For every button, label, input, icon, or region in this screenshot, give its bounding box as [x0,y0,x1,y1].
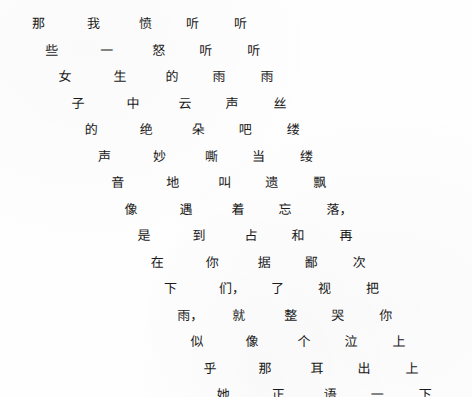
poem-glyph: 上 [392,336,405,349]
poem-glyph: 听 [234,18,247,31]
poem-glyph: 些 [45,45,58,58]
poem-glyph: 吧 [239,124,252,137]
poem-glyph: 雨 [260,71,273,84]
poem-glyph: 怒 [152,45,165,58]
poem-glyph: 出 [358,363,371,376]
poem-glyph: 在 [151,257,164,270]
poem-glyph: 视 [318,283,331,296]
poem-glyph: 耳 [311,363,324,376]
poem-glyph: 落， [326,204,352,217]
poem-glyph: 是 [138,230,151,243]
poem-glyph: 妙 [153,151,166,164]
poem-glyph: 那 [259,363,272,376]
poem-glyph: 朵 [192,124,205,137]
poem-glyph: 雨 [212,71,225,84]
poem-glyph: 绝 [140,124,153,137]
poem-text-layer: 那些女子的声音像是在下雨，似乎她们在记忆里也已经死去我一生中绝妙地遇到你们，就像… [0,0,472,397]
poem-glyph: 个 [297,336,310,349]
poem-glyph: 和 [292,230,305,243]
poem-glyph: 到 [193,230,206,243]
poem-glyph: 地 [166,177,179,190]
poem-glyph: 雨， [177,310,203,323]
poem-glyph: 听 [199,45,212,58]
poem-glyph: 忘 [278,204,291,217]
poem-glyph: 缕 [300,151,313,164]
poem-glyph: 一 [371,389,384,397]
poem-glyph: 的 [85,124,98,137]
poem-glyph: 像 [124,204,137,217]
poem-glyph: 整 [284,310,297,323]
poem-glyph: 上 [406,363,419,376]
poem-glyph: 的 [165,71,178,84]
poem-glyph: 语 [324,389,337,397]
poem-glyph: 缕 [287,124,300,137]
poem-glyph: 中 [127,98,140,111]
poem-glyph: 们， [219,283,245,296]
poem-glyph: 我 [87,18,100,31]
poem-glyph: 次 [353,257,366,270]
poem-glyph: 云 [179,98,192,111]
poem-glyph: 女 [58,71,71,84]
poem-glyph: 泣 [344,336,357,349]
poem-glyph: 就 [232,310,245,323]
poem-glyph: 下 [164,283,177,296]
poem-glyph: 飘 [313,177,326,190]
poem-page: 那些女子的声音像是在下雨，似乎她们在记忆里也已经死去我一生中绝妙地遇到你们，就像… [0,0,472,397]
poem-glyph: 像 [245,336,258,349]
poem-glyph: 音 [111,177,124,190]
poem-glyph: 乎 [204,363,217,376]
poem-glyph: 再 [340,230,353,243]
poem-glyph: 哭 [331,310,344,323]
poem-glyph: 叫 [218,177,231,190]
poem-glyph: 似 [190,336,203,349]
poem-glyph: 你 [206,257,219,270]
poem-glyph: 声 [98,151,111,164]
poem-glyph: 她 [217,389,230,397]
poem-glyph: 把 [366,283,379,296]
poem-glyph: 生 [113,71,126,84]
poem-glyph: 当 [252,151,265,164]
poem-glyph: 遗 [265,177,278,190]
poem-glyph: 正 [272,389,285,397]
poem-glyph: 下 [419,389,432,397]
poem-glyph: 鄙 [305,257,318,270]
poem-glyph: 占 [245,230,258,243]
poem-glyph: 一 [100,45,113,58]
poem-glyph: 你 [379,310,392,323]
poem-glyph: 那 [32,18,45,31]
poem-glyph: 愤 [139,18,152,31]
poem-glyph: 子 [72,98,85,111]
poem-glyph: 声 [226,98,239,111]
poem-glyph: 据 [258,257,271,270]
poem-glyph: 了 [271,283,284,296]
poem-glyph: 听 [186,18,199,31]
poem-glyph: 丝 [274,98,287,111]
poem-glyph: 遇 [179,204,192,217]
poem-glyph: 听 [247,45,260,58]
poem-glyph: 嘶 [205,151,218,164]
poem-glyph: 着 [231,204,244,217]
